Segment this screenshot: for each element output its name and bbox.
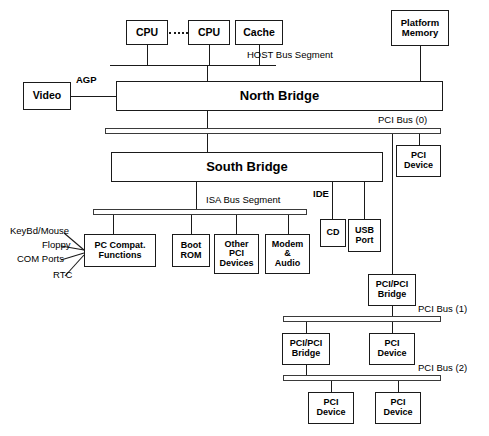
node-usb-port: USB Port [348,219,381,252]
bus-pci-1-label: PCI Bus (1) [418,303,467,314]
node-pci-device-bus0-line-2: Device [404,161,433,171]
node-other-pci-line-3: Devices [219,259,253,269]
node-cpu-2-label: CPU [198,27,220,38]
bus-host-segment-label: HOST Bus Segment [247,49,333,60]
io-label-com-ports: COM Ports [17,253,64,264]
link-cpu2-to-host-bus [209,45,210,65]
node-pci-device-bus2-a-line-2: Device [316,408,345,418]
node-pci-device-bus0: PCI Device [396,145,441,177]
link-cpu1-to-host-bus [147,45,148,65]
link-pci-bus-1-to-pci-pci-bridge-2 [306,322,307,333]
link-south-bridge-to-cd-ide [332,182,333,219]
link-pci-bus-2-to-pci-device-a [331,381,332,392]
link-pci-bus-0-to-south-bridge [207,134,208,152]
bus-pci-2-label: PCI Bus (2) [418,362,467,373]
node-pci-pci-bridge-2-line-2: Bridge [292,349,321,359]
node-cpu-2: CPU [188,20,230,45]
cpu-interconnect-dotted [169,32,188,34]
node-usb-port-line-2: Port [356,236,374,246]
node-south-bridge-label: South Bridge [206,160,288,174]
node-video: Video [23,82,71,110]
node-cd-label: CD [327,228,340,238]
bus-isa-segment-label: ISA Bus Segment [206,194,280,205]
node-modem-audio: Modem & Audio [265,234,310,274]
node-cpu-1-label: CPU [136,27,158,38]
link-label-ide: IDE [313,188,329,199]
bus-host-segment [110,65,276,66]
block-diagram-canvas: CPU CPU Cache HOST Bus Segment Platform … [0,0,489,436]
node-pci-pci-bridge-1-line-2: Bridge [378,290,407,300]
node-other-pci-devices: Other PCI Devices [214,234,259,274]
node-pc-compat-functions: PC Compat. Functions [84,234,156,267]
bus-pci-1 [283,316,441,322]
node-boot-rom-line-2: ROM [181,251,202,261]
node-pci-device-bus2-b-line-2: Device [383,408,412,418]
node-pci-pci-bridge-2: PCI/PCI Bridge [282,333,330,365]
node-south-bridge: South Bridge [111,152,383,182]
link-host-bus-to-north-bridge [207,65,208,81]
link-pci-bus-0-to-pci-pci-bridge [392,134,393,274]
node-cd: CD [320,219,346,247]
node-pci-device-bus2-a: PCI Device [308,392,354,424]
io-label-rtc: RTC [53,269,72,280]
node-video-label: Video [33,90,61,101]
node-modem-audio-line-3: Audio [275,259,301,269]
link-south-bridge-to-isa-bus [196,182,197,210]
bus-isa-segment [93,209,307,215]
node-platform-memory-line-2: Memory [402,28,438,38]
bus-pci-0-label: PCI Bus (0) [378,114,427,125]
bus-pci-2 [283,375,441,381]
node-boot-rom: Boot ROM [172,234,210,267]
node-cache-label: Cache [243,27,275,38]
node-north-bridge-label: North Bridge [240,89,319,103]
link-pci-bus-1-to-pci-device [392,322,393,333]
node-pci-device-bus1-line-2: Device [377,349,406,359]
node-pci-device-bus2-b: PCI Device [375,392,421,424]
link-isa-bus-to-modem-audio [288,215,289,234]
node-cache: Cache [235,20,283,45]
io-label-keybd-mouse: KeyBd/Mouse [10,225,69,236]
link-pci-bus-2-to-pci-device-b [398,381,399,392]
io-label-floppy: Floppy [42,239,71,250]
node-cpu-1: CPU [126,20,168,45]
link-label-agp: AGP [76,74,97,85]
link-platform-memory-to-north-bridge [420,46,421,81]
link-isa-bus-to-other-pci-devices [236,215,237,234]
link-video-to-north-bridge-agp [71,96,116,97]
link-isa-bus-to-pc-compat [113,215,114,234]
link-isa-bus-to-boot-rom [191,215,192,234]
node-platform-memory: Platform Memory [391,10,449,46]
node-north-bridge: North Bridge [116,81,443,111]
node-pci-pci-bridge-1: PCI/PCI Bridge [368,274,416,306]
bus-pci-0 [105,128,441,134]
node-pci-device-bus1: PCI Device [369,333,415,365]
link-south-bridge-to-usb-port [364,182,365,219]
link-pci-bus-0-to-pci-device [419,134,420,145]
node-pc-compat-line-2: Functions [99,251,142,261]
